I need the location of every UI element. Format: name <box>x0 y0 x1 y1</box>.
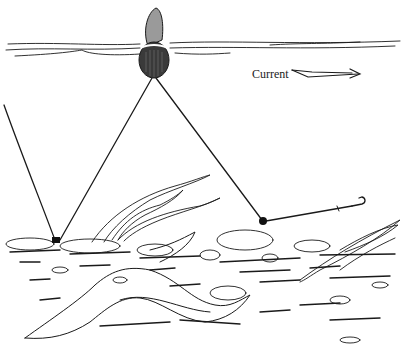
current-arrow-icon <box>292 69 360 78</box>
current-label: Current <box>252 67 289 82</box>
float-icon <box>139 8 169 78</box>
riverbed-rocks <box>6 230 388 343</box>
fishing-lines <box>4 78 352 240</box>
seaweed-left <box>92 175 220 242</box>
drift-sinker <box>259 217 267 225</box>
anchor-sinker <box>52 237 60 243</box>
fishing-rig-illustration: Current <box>0 0 409 352</box>
hook-icon <box>352 197 365 206</box>
water-surface <box>6 41 400 56</box>
illustration-svg <box>0 0 409 352</box>
seaweed-right <box>300 220 400 282</box>
